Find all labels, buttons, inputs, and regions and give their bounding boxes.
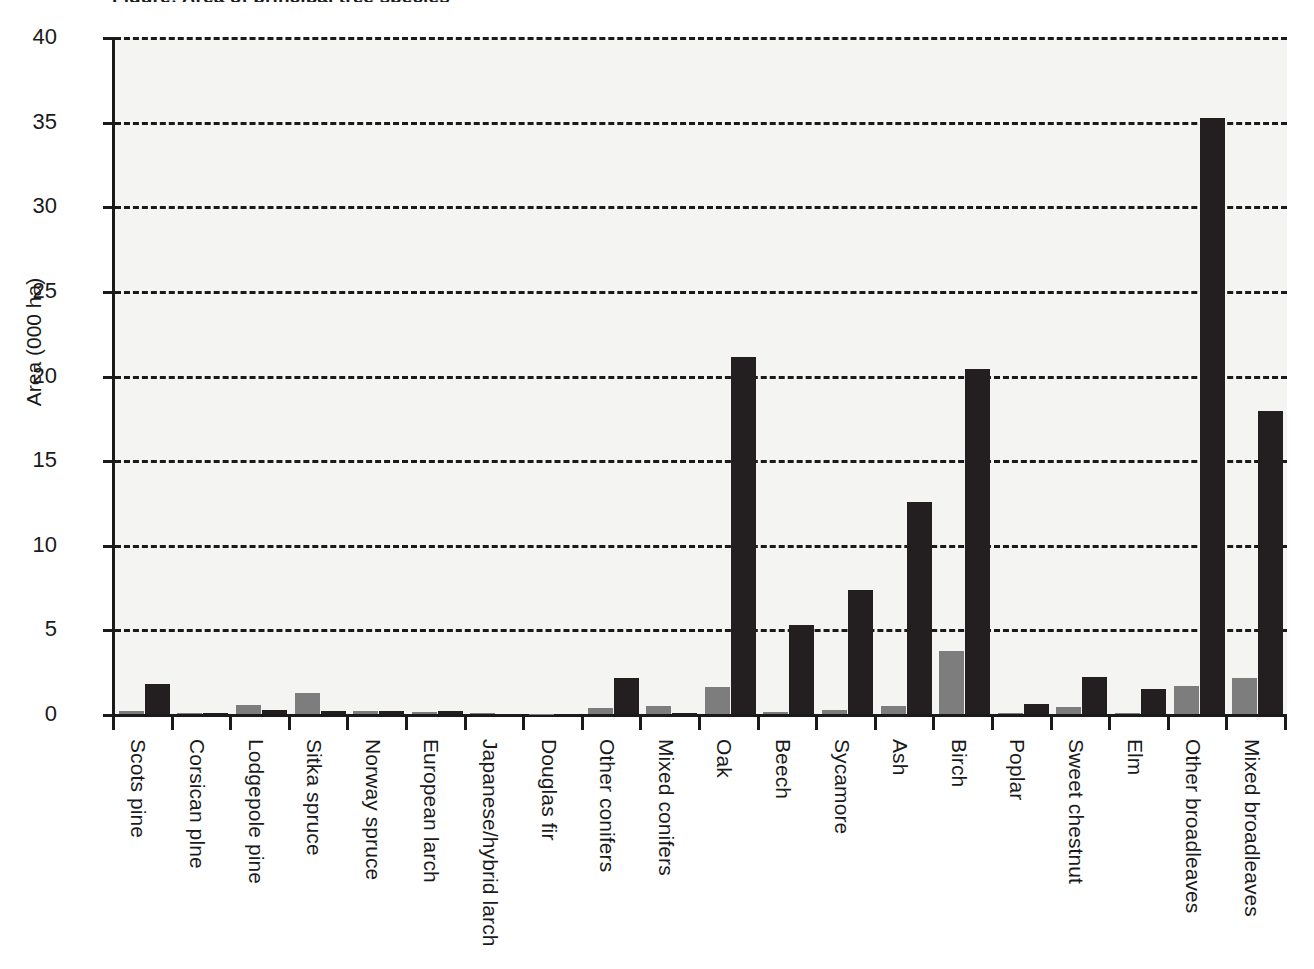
x-tick-label: Mixed conifers bbox=[654, 739, 678, 876]
bar-group bbox=[525, 37, 584, 714]
bar-group bbox=[584, 37, 643, 714]
bar-light bbox=[236, 705, 261, 714]
x-tick-label: Japanese/hybrid larch bbox=[478, 739, 502, 947]
x-tick-mark bbox=[991, 717, 994, 730]
x-tick-label: Norway spruce bbox=[361, 739, 385, 880]
bar-light bbox=[588, 708, 613, 714]
bar-group bbox=[1228, 37, 1287, 714]
y-tick-mark bbox=[103, 376, 115, 379]
x-axis: Scots pineCorsican plneLodgepole pineSit… bbox=[112, 717, 1284, 967]
x-tick-label: Other broadleaves bbox=[1181, 739, 1205, 913]
x-tick-mark bbox=[1225, 717, 1228, 730]
x-tick-label: Sycamore bbox=[830, 739, 854, 834]
x-tick-label: Corsican plne bbox=[185, 739, 209, 869]
x-tick-label: Douglas fir bbox=[537, 739, 561, 840]
y-tick-label: 15 bbox=[0, 447, 57, 473]
bar-group bbox=[1170, 37, 1229, 714]
x-tick-mark bbox=[698, 717, 701, 730]
bar-dark bbox=[321, 711, 346, 714]
bar-group bbox=[994, 37, 1053, 714]
bar-dark bbox=[907, 502, 932, 714]
bar-group bbox=[642, 37, 701, 714]
bar-dark bbox=[848, 590, 873, 714]
x-tick-mark bbox=[932, 717, 935, 730]
x-tick-mark bbox=[757, 717, 760, 730]
y-tick-label: 5 bbox=[0, 616, 57, 642]
y-tick-mark bbox=[103, 460, 115, 463]
x-tick-mark bbox=[815, 717, 818, 730]
x-tick-mark bbox=[112, 717, 115, 730]
bar-dark bbox=[1082, 677, 1107, 714]
x-tick-mark bbox=[1284, 717, 1287, 730]
y-tick-label: 20 bbox=[0, 363, 57, 389]
bar-group bbox=[349, 37, 408, 714]
bar-light bbox=[998, 713, 1023, 714]
y-tick-mark bbox=[103, 629, 115, 632]
bar-group bbox=[408, 37, 467, 714]
y-tick-label: 30 bbox=[0, 193, 57, 219]
x-tick-mark bbox=[581, 717, 584, 730]
bar-group bbox=[935, 37, 994, 714]
bar-light bbox=[470, 713, 495, 714]
bar-dark bbox=[672, 713, 697, 714]
x-tick-label: Other conifers bbox=[595, 739, 619, 872]
x-tick-label: Birch bbox=[947, 739, 971, 787]
x-tick-mark bbox=[229, 717, 232, 730]
x-tick-label: Oak bbox=[712, 739, 736, 778]
bar-group bbox=[467, 37, 526, 714]
x-tick-mark bbox=[346, 717, 349, 730]
y-tick-label: 25 bbox=[0, 278, 57, 304]
y-tick-mark bbox=[103, 545, 115, 548]
bar-dark bbox=[145, 684, 170, 714]
y-tick-mark bbox=[103, 122, 115, 125]
bar-dark bbox=[731, 357, 756, 714]
bar-dark bbox=[789, 625, 814, 714]
x-tick-mark bbox=[1108, 717, 1111, 730]
x-tick-label: Sitka spruce bbox=[302, 739, 326, 856]
bar-light bbox=[705, 687, 730, 714]
x-tick-mark bbox=[171, 717, 174, 730]
bar-dark bbox=[965, 369, 990, 714]
bar-dark bbox=[438, 711, 463, 714]
bar-light bbox=[763, 712, 788, 714]
bar-light bbox=[412, 712, 437, 714]
bar-group bbox=[877, 37, 936, 714]
chart-figure: Figure: Area of principal tree species A… bbox=[0, 0, 1314, 969]
y-tick-label: 40 bbox=[0, 24, 57, 50]
y-tick-label: 35 bbox=[0, 109, 57, 135]
bar-group bbox=[760, 37, 819, 714]
bar-series-container bbox=[115, 37, 1287, 714]
bar-dark bbox=[262, 710, 287, 714]
bar-light bbox=[1115, 713, 1140, 714]
bar-light bbox=[295, 693, 320, 714]
bar-group bbox=[291, 37, 350, 714]
bar-light bbox=[1174, 686, 1199, 714]
bar-dark bbox=[203, 713, 228, 714]
y-tick-label: 0 bbox=[0, 701, 57, 727]
x-tick-label: Sweet chestnut bbox=[1064, 739, 1088, 884]
plot-area: 0510152025303540 bbox=[112, 37, 1287, 717]
bar-group bbox=[115, 37, 174, 714]
x-tick-label: European larch bbox=[419, 739, 443, 883]
bar-dark bbox=[1258, 411, 1283, 714]
x-tick-mark bbox=[1050, 717, 1053, 730]
y-tick-mark bbox=[103, 291, 115, 294]
bar-dark bbox=[614, 678, 639, 714]
bar-dark bbox=[1024, 704, 1049, 714]
x-tick-mark bbox=[522, 717, 525, 730]
y-axis-label: Area (000 ha) bbox=[22, 222, 46, 462]
bar-group bbox=[1053, 37, 1112, 714]
bar-dark bbox=[379, 711, 404, 714]
bar-group bbox=[232, 37, 291, 714]
bar-dark bbox=[1141, 689, 1166, 714]
bar-dark bbox=[496, 714, 521, 715]
bar-light bbox=[939, 651, 964, 714]
x-tick-label: Poplar bbox=[1005, 739, 1029, 800]
bar-light bbox=[1232, 678, 1257, 714]
bar-light bbox=[353, 711, 378, 714]
x-tick-label: Lodgepole pine bbox=[244, 739, 268, 884]
x-tick-label: Elm bbox=[1123, 739, 1147, 775]
x-tick-label: Mixed broadleaves bbox=[1240, 739, 1264, 917]
page-title: Figure: Area of principal tree species bbox=[112, 0, 450, 2]
x-tick-mark bbox=[464, 717, 467, 730]
